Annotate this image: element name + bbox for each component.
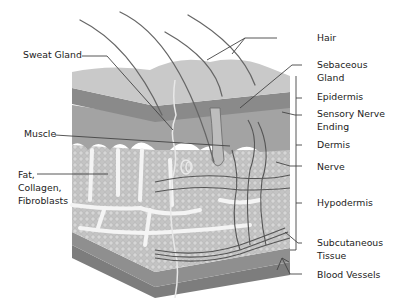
label-hair: Hair — [317, 31, 336, 44]
label-dermis: Dermis — [317, 138, 350, 151]
label-sebaceous-gland: Sebaceous Gland — [317, 58, 367, 84]
label-sweat-gland: Sweat Gland — [23, 48, 82, 61]
label-subcutaneous-tissue: Subcutaneous Tissue — [317, 236, 383, 262]
label-hypodermis: Hypodermis — [317, 196, 373, 209]
label-epidermis: Epidermis — [317, 90, 363, 103]
label-sensory-nerve-ending: Sensory Nerve Ending — [317, 107, 385, 133]
label-nerve: Nerve — [317, 160, 345, 173]
label-blood-vessels: Blood Vessels — [317, 268, 380, 281]
label-muscle: Muscle — [24, 127, 56, 140]
label-fat-collagen-fibroblasts: Fat, Collagen, Fibroblasts — [18, 168, 68, 207]
